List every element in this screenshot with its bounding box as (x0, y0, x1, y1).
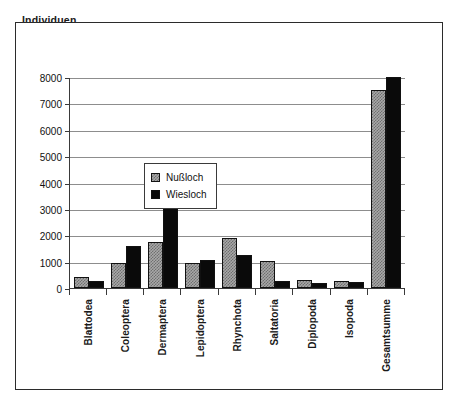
x-axis-tick-cell (106, 289, 143, 295)
y-axis-tick-label: 8000 (40, 73, 62, 84)
x-axis-label-cell: Isopoda (330, 299, 367, 389)
x-axis-tick-cell (218, 289, 255, 295)
bar (163, 201, 178, 288)
x-axis-tick (292, 289, 293, 295)
bar (111, 263, 126, 288)
bar (200, 260, 215, 288)
legend-label-nussloch: Nußloch (166, 172, 203, 183)
bar (222, 238, 237, 288)
bar (312, 283, 327, 288)
bar (148, 242, 163, 288)
bar (275, 281, 290, 288)
y-axis-tick-label: 7000 (40, 99, 62, 110)
bar (371, 90, 386, 288)
bar-group (331, 78, 368, 288)
y-axis-tick-label: 3000 (40, 204, 62, 215)
bar (185, 263, 200, 288)
x-axis-label-cell: Coleoptera (106, 299, 143, 389)
x-axis-tick-cell (330, 289, 367, 295)
x-axis-tick-cell (256, 289, 293, 295)
x-axis-labels: BlattodeaColeopteraDermapteraLepidoptera… (69, 299, 405, 389)
bar-group (293, 78, 330, 288)
x-axis-tick (106, 289, 107, 295)
x-axis-tick (367, 289, 368, 295)
legend-swatch-wiesloch (151, 190, 160, 199)
bar (349, 282, 364, 288)
x-axis-label: Isopoda (343, 299, 354, 338)
x-axis-tick-cell (368, 289, 405, 295)
x-axis-tick-cell (293, 289, 330, 295)
legend-item-nussloch: Nußloch (151, 169, 207, 186)
x-axis-label: Gesamtsumme (381, 299, 392, 372)
x-axis-label-cell: Blattodea (69, 299, 106, 389)
bar-group (219, 78, 256, 288)
bar (334, 281, 349, 288)
x-axis-label-cell: Rhynchota (218, 299, 255, 389)
legend-swatch-nussloch (151, 173, 160, 182)
x-axis-label: Rhynchota (231, 299, 242, 352)
x-axis-tick-cell (144, 289, 181, 295)
legend-item-wiesloch: Wiesloch (151, 186, 207, 203)
y-axis-tick-label: 6000 (40, 125, 62, 136)
plot-area: 010002000300040005000600070008000 Nußloc… (69, 78, 405, 289)
bar (74, 277, 89, 288)
x-axis-tick-cell (69, 289, 106, 295)
x-axis-label-cell: Diplopoda (293, 299, 330, 389)
y-axis-tick-label: 2000 (40, 231, 62, 242)
x-axis-label-cell: Dermaptera (144, 299, 181, 389)
x-axis-label: Lepidoptera (194, 299, 205, 357)
y-axis-tick-label: 1000 (40, 257, 62, 268)
legend: Nußloch Wiesloch (144, 163, 217, 209)
x-axis-label: Diplopoda (306, 299, 317, 349)
x-axis-label: Saltatoria (269, 299, 280, 346)
bar-group (107, 78, 144, 288)
x-axis-tick (69, 289, 70, 295)
y-axis-tick-label: 4000 (40, 178, 62, 189)
x-axis-label: Coleoptera (119, 299, 130, 352)
y-axis-tick-label: 0 (56, 284, 62, 295)
x-axis-label-cell: Saltatoria (256, 299, 293, 389)
x-axis-tick (218, 289, 219, 295)
x-axis-ticks (69, 289, 405, 295)
bar (386, 77, 401, 288)
x-axis-tick (143, 289, 144, 295)
x-axis-tick (404, 289, 405, 295)
x-axis-tick-cell (181, 289, 218, 295)
x-axis-label-cell: Gesamtsumme (368, 299, 405, 389)
bar (297, 280, 312, 288)
legend-label-wiesloch: Wiesloch (166, 189, 207, 200)
bar-series-container (70, 78, 405, 288)
y-axis-tick-label: 5000 (40, 152, 62, 163)
bar (89, 281, 104, 288)
x-axis-tick (330, 289, 331, 295)
bar (126, 246, 141, 288)
x-axis-tick (255, 289, 256, 295)
bar (260, 261, 275, 288)
x-axis-tick (180, 289, 181, 295)
x-axis-label-cell: Lepidoptera (181, 299, 218, 389)
bar-group (368, 78, 405, 288)
x-axis-label: Blattodea (82, 299, 93, 345)
x-axis-label: Dermaptera (157, 299, 168, 356)
figure-frame: 010002000300040005000600070008000 Nußloc… (15, 22, 443, 390)
bar (237, 255, 252, 288)
bar-group (256, 78, 293, 288)
bar-group (70, 78, 107, 288)
